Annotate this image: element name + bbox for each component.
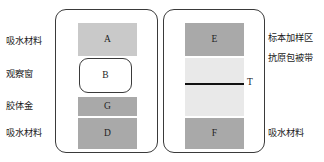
block-b-observation-window: B — [79, 58, 132, 93]
panel-left-device: A B G D — [55, 9, 158, 153]
block-d: D — [78, 118, 137, 149]
test-line-t — [185, 83, 244, 85]
label-absorbent-material-right: 吸水材料 — [268, 128, 304, 137]
label-absorbent-material-top-left: 吸水材料 — [6, 36, 42, 45]
test-line-label-t: T — [247, 78, 253, 88]
block-a: A — [78, 23, 137, 56]
block-f: F — [185, 118, 244, 149]
label-observation-window: 观察窗 — [6, 69, 33, 78]
test-strip-diagram: 吸水材料 观察窗 胶体金 吸水材料 A B G D E F T 标本加样区 抗原… — [0, 0, 324, 162]
label-colloidal-gold: 胶体金 — [6, 101, 33, 110]
label-specimen-loading-zone: 标本加样区 — [268, 33, 313, 42]
label-antigen-coated-band: 抗原包被带 — [268, 53, 313, 62]
label-absorbent-material-bottom-left: 吸水材料 — [6, 128, 42, 137]
block-e: E — [185, 23, 244, 56]
block-antigen-band-area — [185, 58, 244, 116]
block-g: G — [78, 97, 137, 116]
